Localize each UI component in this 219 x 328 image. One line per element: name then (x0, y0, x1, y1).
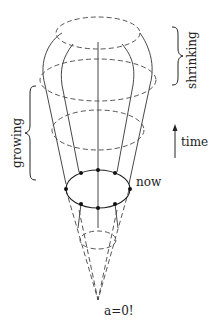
time-label: time (181, 135, 208, 149)
now-label: now (136, 175, 162, 189)
universe-cone-diagram: shrinking growing time now a=0! (0, 0, 219, 328)
meridian-lines-solid (43, 33, 152, 228)
time-arrow-icon (173, 124, 178, 158)
origin-label: a=0! (104, 304, 134, 318)
growing-brace (25, 86, 36, 180)
shrinking-label: shrinking (185, 31, 199, 89)
growing-label: growing (10, 118, 24, 168)
shrinking-brace (172, 27, 183, 85)
